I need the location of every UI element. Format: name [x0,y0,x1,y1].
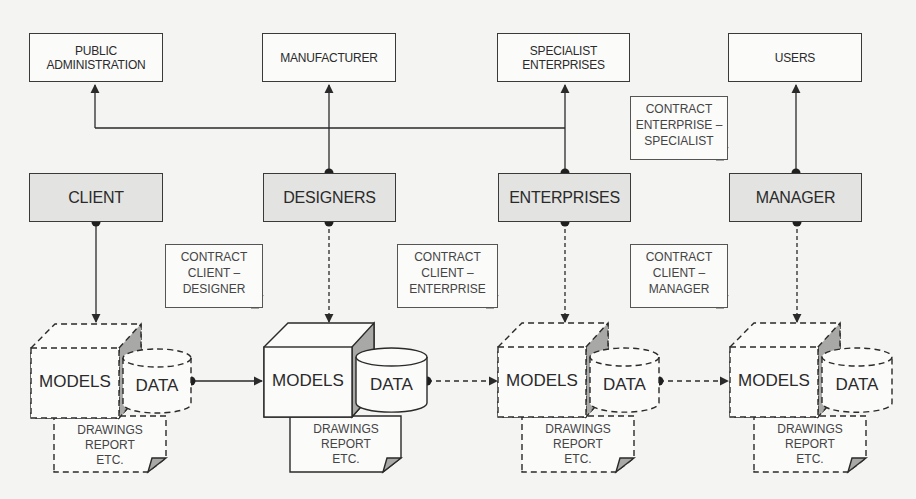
client-docs-label: DRAWINGS REPORT ETC. [66,423,154,468]
enterprises-models-label: MODELS [502,371,582,391]
enterprises-docs-label: DRAWINGS REPORT ETC. [534,422,622,467]
doc-line: ETC. [534,452,622,467]
manufacturer-label: MANUFACTURER [280,51,378,65]
public-administration-label-2: ADMINISTRATION [47,58,146,72]
contract-client-enterprise-note: CONTRACT CLIENT – ENTERPRISE [397,244,498,308]
users-label: USERS [775,51,815,65]
client-label: CLIENT [68,191,124,205]
note-line: CLIENT – [398,265,497,281]
specialist-enterprises-label-2: ENTERPRISES [522,58,605,72]
doc-line: DRAWINGS [534,422,622,437]
manager-label: MANAGER [756,191,836,205]
doc-line: DRAWINGS [766,422,854,437]
note-line: CONTRACT [398,249,497,265]
enterprises-label: ENTERPRISES [509,191,620,205]
contract-enterprise-specialist-note: CONTRACT ENTERPRISE – SPECIALIST [630,96,728,160]
note-line: SPECIALIST [631,133,727,149]
designers-label: DESIGNERS [283,191,375,205]
contract-client-designer-note: CONTRACT CLIENT – DESIGNER [165,244,263,308]
specialist-enterprises-label-1: SPECIALIST [530,44,597,58]
designers-models-label: MODELS [268,371,348,391]
doc-line: REPORT [66,438,154,453]
doc-line: REPORT [766,437,854,452]
note-line: CONTRACT [631,101,727,117]
enterprises-box: ENTERPRISES [498,173,631,222]
enterprises-data-label: DATA [592,375,657,395]
public-administration-label-1: PUBLIC [75,44,117,58]
note-line: MANAGER [631,281,727,297]
designers-docs-label: DRAWINGS REPORT ETC. [302,422,390,467]
users-box: USERS [728,33,862,82]
note-line: DESIGNER [166,281,262,297]
doc-line: DRAWINGS [302,422,390,437]
manager-docs-label: DRAWINGS REPORT ETC. [766,422,854,467]
public-administration-box: PUBLICADMINISTRATION [29,33,163,82]
manager-models-label: MODELS [734,371,814,391]
doc-line: ETC. [302,452,390,467]
manufacturer-box: MANUFACTURER [262,33,396,82]
note-line: CONTRACT [631,249,727,265]
note-line: CONTRACT [166,249,262,265]
client-data-label: DATA [125,376,189,396]
manager-data-label: DATA [824,375,890,395]
note-line: ENTERPRISE – [631,117,727,133]
manager-box: MANAGER [729,173,862,222]
contract-client-manager-note: CONTRACT CLIENT – MANAGER [630,244,728,308]
specialist-enterprises-box: SPECIALISTENTERPRISES [497,33,630,82]
client-box: CLIENT [29,173,163,222]
doc-line: DRAWINGS [66,423,154,438]
note-line: ENTERPRISE [398,281,497,297]
doc-line: ETC. [766,452,854,467]
note-line: CLIENT – [631,265,727,281]
doc-line: REPORT [302,437,390,452]
doc-line: REPORT [534,437,622,452]
client-models-label: MODELS [35,372,115,392]
designers-box: DESIGNERS [263,173,396,222]
designers-data-label: DATA [358,375,425,395]
doc-line: ETC. [66,453,154,468]
note-line: CLIENT – [166,265,262,281]
